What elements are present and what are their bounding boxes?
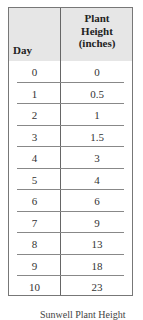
table-row: 918	[9, 255, 132, 277]
table-row: 00	[9, 61, 132, 83]
table-row: 1023	[9, 276, 132, 298]
table-caption: Sunwell Plant Height	[40, 309, 126, 320]
table-row: 10.5	[9, 83, 132, 105]
cell-day: 4	[9, 152, 60, 164]
cell-day: 6	[9, 195, 60, 207]
cell-day: 9	[9, 260, 60, 272]
header-line: Plant	[61, 12, 133, 25]
cell-height: 23	[61, 281, 133, 293]
cell-day: 3	[9, 131, 60, 143]
cell-height: 13	[61, 238, 133, 250]
plant-height-table: Day Plant Height (inches) 00 10.5 21 31.…	[8, 7, 133, 296]
cell-height: 1.5	[61, 131, 133, 143]
cell-height: 6	[61, 195, 133, 207]
cell-day: 5	[9, 174, 60, 186]
cell-height: 0.5	[61, 88, 133, 100]
table-row: 66	[9, 190, 132, 212]
cell-day: 2	[9, 109, 60, 121]
header-day: Day	[13, 44, 32, 56]
table-row: 79	[9, 212, 132, 234]
cell-day: 10	[9, 281, 60, 293]
cell-day: 7	[9, 217, 60, 229]
cell-height: 4	[61, 174, 133, 186]
cell-height: 18	[61, 260, 133, 272]
cell-height: 1	[61, 109, 133, 121]
table-row: 813	[9, 233, 132, 255]
table-row: 21	[9, 104, 132, 126]
cell-height: 9	[61, 217, 133, 229]
cell-day: 1	[9, 88, 60, 100]
table-row: 43	[9, 147, 132, 169]
cell-height: 0	[61, 66, 133, 78]
table-row: 31.5	[9, 126, 132, 148]
cell-day: 8	[9, 238, 60, 250]
cell-day: 0	[9, 66, 60, 78]
header-plant-height: Plant Height (inches)	[61, 12, 133, 50]
header-line: Height	[61, 25, 133, 38]
table-row: 54	[9, 169, 132, 191]
cell-height: 3	[61, 152, 133, 164]
header-line: (inches)	[61, 37, 133, 50]
